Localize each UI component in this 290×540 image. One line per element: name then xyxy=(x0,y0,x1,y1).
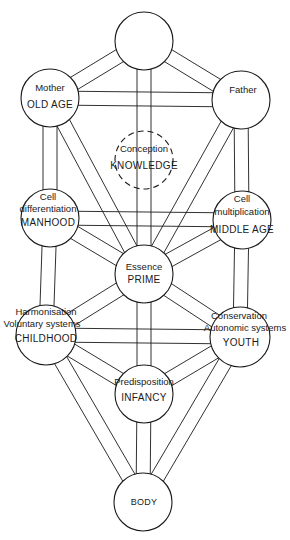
body-label: BODY xyxy=(131,497,158,507)
mother-label: OLD AGE xyxy=(27,99,73,110)
middle-age-sublabel-2: multiplication xyxy=(215,206,270,217)
node-mother xyxy=(21,69,79,127)
childhood-sublabel-2: Voluntary systems xyxy=(3,318,80,329)
youth-sublabel-1: Conservation xyxy=(211,310,267,321)
knowledge-label: KNOWLEDGE xyxy=(110,160,178,171)
prime-label: PRIME xyxy=(127,274,160,285)
youth-sublabel-2: Autonomic systems xyxy=(204,322,287,333)
middle-age-label: MIDDLE AGE xyxy=(210,224,274,235)
knowledge-sublabel: Conception xyxy=(120,143,168,154)
infancy-sublabel: Predisposition xyxy=(114,376,174,387)
father-sublabel: Father xyxy=(229,84,256,95)
node-father xyxy=(212,71,270,129)
tree-of-life-diagram: Mother OLD AGE Father Conception KNOWLED… xyxy=(0,0,290,540)
childhood-label: CHILDHOOD xyxy=(15,333,78,344)
manhood-sublabel-1: Cell xyxy=(40,191,56,202)
mother-sublabel: Mother xyxy=(35,82,65,93)
infancy-label: INFANCY xyxy=(121,392,166,403)
manhood-sublabel-2: differentiation xyxy=(20,203,77,214)
node-crown xyxy=(115,12,173,70)
prime-sublabel: Essence xyxy=(126,261,162,272)
manhood-label: MANHOOD xyxy=(21,217,75,228)
childhood-sublabel-1: Harmonisation xyxy=(15,306,76,317)
middle-age-sublabel-1: Cell xyxy=(234,193,250,204)
path-father-prime xyxy=(150,103,247,277)
youth-label: YOUTH xyxy=(223,337,260,348)
